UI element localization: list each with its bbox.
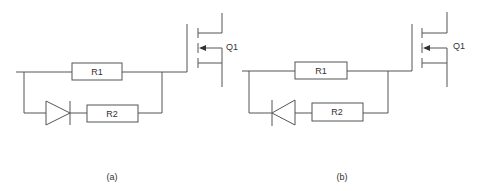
body-arrow-icon (423, 45, 430, 51)
panel-b: R1 R2 Q1 (b) (242, 12, 465, 182)
diode-icon (272, 100, 295, 125)
transistor-q1-label: Q1 (453, 41, 465, 51)
resistor-r1-label: R1 (315, 66, 327, 76)
body-arrow-icon (199, 45, 206, 51)
resistor-r1-label: R1 (91, 67, 103, 77)
panel-a-caption: (a) (107, 172, 118, 182)
mosfet-q1-icon (412, 12, 447, 87)
resistor-r2-label: R2 (331, 107, 343, 117)
resistor-r2-label: R2 (106, 109, 118, 119)
gate-drive-diagram: R1 R2 Q1 (a) R (0, 0, 477, 191)
panel-b-caption: (b) (337, 172, 348, 182)
diode-icon (46, 101, 70, 125)
mosfet-q1-icon (187, 13, 222, 87)
transistor-q1-label: Q1 (226, 42, 238, 52)
panel-a: R1 R2 Q1 (a) (16, 13, 238, 182)
